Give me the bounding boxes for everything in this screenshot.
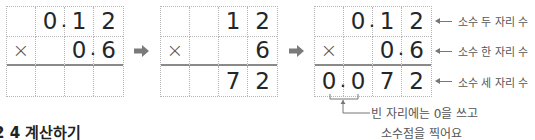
cell: 6 bbox=[248, 37, 277, 67]
cell: 2 bbox=[248, 66, 277, 96]
note-line2: 소수점을 찍어요 bbox=[381, 124, 462, 140]
cell bbox=[36, 66, 65, 96]
cell bbox=[36, 37, 65, 67]
cell: 1 bbox=[373, 7, 402, 37]
multiply-sign: × bbox=[7, 37, 36, 67]
note-line1: 빈 자리에는 0을 쓰고 bbox=[371, 104, 478, 121]
cell bbox=[344, 37, 373, 67]
cell: 1 bbox=[65, 7, 94, 37]
cell bbox=[190, 7, 219, 37]
multiply-sign: × bbox=[161, 37, 190, 67]
section-heading: 2 4 계산하기 bbox=[0, 121, 81, 140]
cell: 2 bbox=[94, 7, 123, 37]
bracket-pointer-icon bbox=[326, 94, 374, 116]
cell: 2 bbox=[402, 7, 431, 37]
cell bbox=[161, 66, 190, 96]
label-row2: 소수 한 자리 수 bbox=[436, 36, 535, 66]
cell bbox=[7, 7, 36, 37]
cell: 1 bbox=[219, 7, 248, 37]
cell bbox=[94, 66, 123, 96]
cell bbox=[219, 37, 248, 67]
multiply-sign: × bbox=[315, 37, 344, 67]
cell: 0 bbox=[344, 66, 373, 96]
cell: 0. bbox=[36, 7, 65, 37]
left-arrow-icon bbox=[436, 51, 452, 52]
step2-grid: 1 2 × 6 7 2 bbox=[160, 6, 278, 97]
cell: 0. bbox=[373, 37, 402, 67]
cell bbox=[315, 7, 344, 37]
cell: 7 bbox=[219, 66, 248, 96]
step3-grid: 0. 1 2 × 0. 6 0. 0 7 2 bbox=[314, 6, 432, 97]
cell: 2 bbox=[402, 66, 431, 96]
step1-grid: 0. 1 2 × 0. 6 bbox=[6, 6, 124, 97]
cell bbox=[7, 66, 36, 96]
right-arrow-icon bbox=[134, 45, 149, 57]
cell bbox=[65, 66, 94, 96]
cell: 6 bbox=[402, 37, 431, 67]
cell: 0. bbox=[315, 66, 344, 96]
label-row3: 소수 세 자리 수 bbox=[436, 67, 535, 97]
cell bbox=[190, 37, 219, 67]
cell: 2 bbox=[248, 7, 277, 37]
left-arrow-icon bbox=[436, 21, 452, 22]
right-arrow-icon bbox=[289, 45, 304, 57]
cell: 0. bbox=[344, 7, 373, 37]
cell bbox=[190, 66, 219, 96]
cell: 0. bbox=[65, 37, 94, 67]
decimal-place-labels: 소수 두 자리 수 소수 한 자리 수 소수 세 자리 수 bbox=[436, 6, 535, 97]
cell: 6 bbox=[94, 37, 123, 67]
left-arrow-icon bbox=[436, 81, 452, 82]
label-row1: 소수 두 자리 수 bbox=[436, 6, 535, 36]
cell bbox=[161, 7, 190, 37]
cell: 7 bbox=[373, 66, 402, 96]
